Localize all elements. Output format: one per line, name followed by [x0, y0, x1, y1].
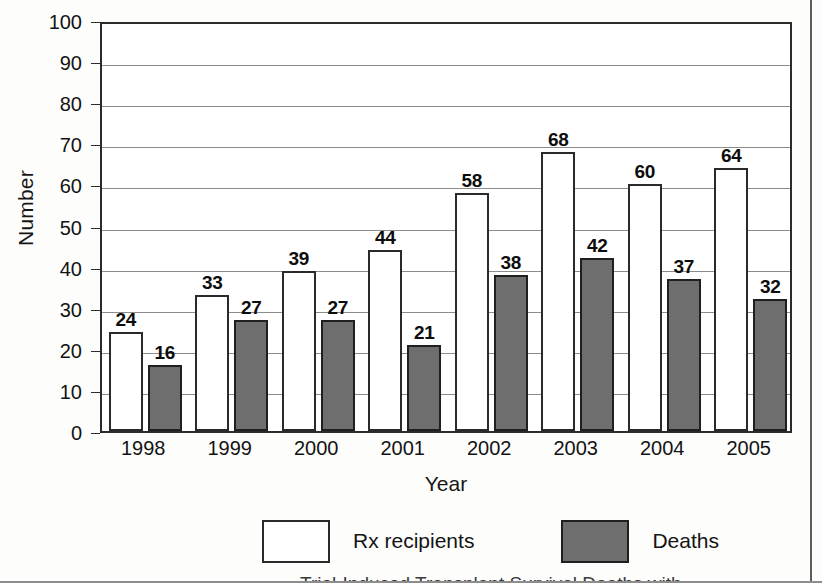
y-tick-label: 90 — [22, 52, 82, 75]
legend-item-deaths: Deaths — [561, 520, 719, 563]
x-tick-label-2001: 2001 — [381, 437, 426, 460]
y-tick-label: 40 — [22, 257, 82, 280]
x-tick-label-1998: 1998 — [121, 437, 166, 460]
y-tick-mark — [91, 433, 100, 434]
y-tick-label: 0 — [22, 422, 82, 445]
y-tick-mark — [91, 392, 100, 393]
x-tick-label-2004: 2004 — [640, 437, 685, 460]
x-axis-title: Year — [100, 472, 792, 496]
y-tick-label: 20 — [22, 339, 82, 362]
chart-legend: Rx recipientsDeaths — [262, 518, 719, 564]
y-tick-mark — [91, 351, 100, 352]
y-tick-label: 60 — [22, 175, 82, 198]
y-tick-mark — [91, 228, 100, 229]
y-tick-label: 100 — [22, 11, 82, 34]
y-tick-mark — [91, 269, 100, 270]
y-tick-label: 70 — [22, 134, 82, 157]
legend-swatch-gray-box — [561, 520, 629, 563]
x-tick-label-1999: 1999 — [208, 437, 253, 460]
x-axis-tick-labels: 19981999200020012002200320042005 — [100, 437, 792, 469]
legend-item-rx-recipients: Rx recipients — [262, 520, 474, 563]
x-tick-label-2002: 2002 — [467, 437, 512, 460]
y-tick-mark — [91, 104, 100, 105]
y-tick-label: 80 — [22, 93, 82, 116]
scanned-figure-page: Number 24163327392744215838684260376432 … — [0, 0, 822, 583]
y-tick-mark — [91, 63, 100, 64]
page-border-right — [810, 0, 812, 583]
y-tick-label: 50 — [22, 216, 82, 239]
y-tick-mark — [91, 310, 100, 311]
y-tick-label: 30 — [22, 298, 82, 321]
x-tick-label-2003: 2003 — [554, 437, 599, 460]
x-tick-label-2005: 2005 — [727, 437, 772, 460]
legend-label: Deaths — [652, 529, 719, 553]
y-tick-mark — [91, 186, 100, 187]
legend-swatch-white-box — [262, 520, 330, 563]
y-axis-ticks: 0102030405060708090100 — [100, 22, 792, 433]
y-tick-label: 10 — [22, 380, 82, 403]
x-tick-label-2000: 2000 — [294, 437, 339, 460]
bar-chart-figure: Number 24163327392744215838684260376432 … — [0, 0, 810, 580]
legend-label: Rx recipients — [353, 529, 474, 553]
y-tick-mark — [91, 22, 100, 23]
clipped-caption-text: Trial-Induced Transplant Survival Deaths… — [300, 574, 720, 581]
y-tick-mark — [91, 145, 100, 146]
